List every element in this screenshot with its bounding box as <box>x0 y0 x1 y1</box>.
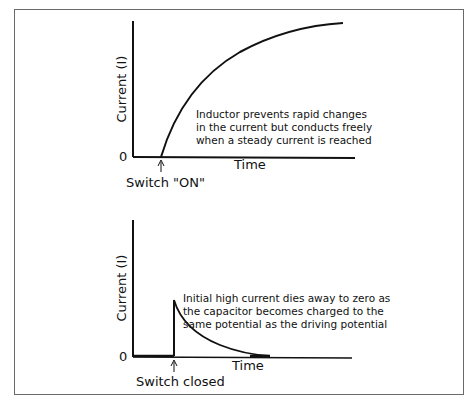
y-axis-label: Current (I) <box>114 53 129 123</box>
x-axis-label: Time <box>234 157 266 172</box>
x-axis-label: Time <box>232 358 264 373</box>
inductor-annotation: Inductor prevents rapid changes in the c… <box>196 108 348 147</box>
capacitor-annotation: Initial high current dies away to zero a… <box>183 292 359 331</box>
switch-closed-label: Switch closed <box>136 374 225 389</box>
zero-tick: 0 <box>119 349 127 364</box>
zero-tick: 0 <box>119 149 127 164</box>
plots <box>0 0 473 408</box>
inductor-chart <box>133 21 355 172</box>
y-axis-label: Current (I) <box>114 252 129 322</box>
switch-on-label: Switch "ON" <box>126 175 205 190</box>
